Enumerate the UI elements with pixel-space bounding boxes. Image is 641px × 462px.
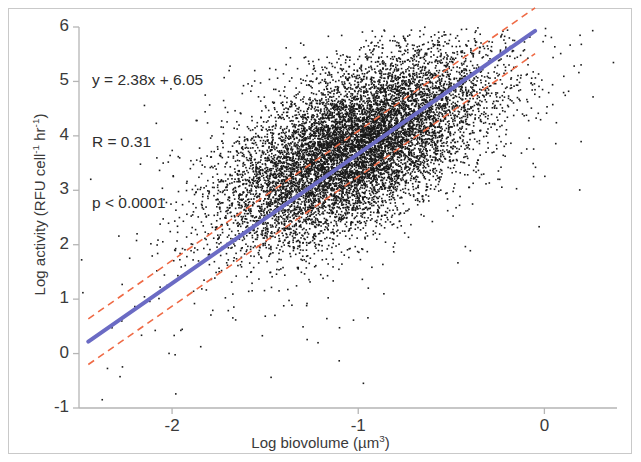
x-axis-title-suffix: ) (385, 434, 390, 451)
y-tick-label: 6 (27, 16, 69, 36)
y-tick-label: 5 (27, 70, 69, 90)
r-value-text: R = 0.31 (92, 132, 203, 153)
y-axis-title-part1: Log activity (RFU cell (31, 154, 48, 296)
y-axis-title-part3: ) (31, 114, 48, 119)
x-tick-label: 0 (524, 416, 564, 436)
regression-equation-text: y = 2.38x + 6.05 (92, 70, 203, 91)
x-axis-title-prefix: Log biovolume (µm (251, 434, 379, 451)
x-axis-title: Log biovolume (µm3) (0, 434, 641, 451)
y-tick-label: 2 (27, 234, 69, 254)
p-value-text: p < 0.0001 (92, 193, 203, 214)
x-tick-label: -1 (338, 416, 378, 436)
y-tick-label: -1 (27, 397, 69, 417)
y-tick-label: 1 (27, 288, 69, 308)
y-tick-label: 3 (27, 179, 69, 199)
y-tick-label: 4 (27, 125, 69, 145)
y-axis-title-sup1: -1 (30, 145, 41, 154)
y-tick-label: 0 (27, 343, 69, 363)
statistics-annotation: y = 2.38x + 6.05 R = 0.31 p < 0.0001 (92, 29, 203, 255)
figure-panel: y = 2.38x + 6.05 R = 0.31 p < 0.0001 Log… (0, 0, 641, 462)
x-tick-label: -2 (152, 416, 192, 436)
